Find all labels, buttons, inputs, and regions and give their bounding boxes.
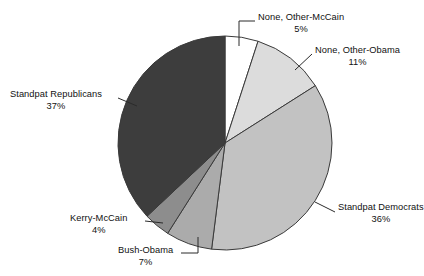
callout-label-bush-obama: Bush-Obama xyxy=(118,245,173,255)
callout-value-kerry-mccain: 4% xyxy=(70,224,127,236)
pie-chart-figure: None, Other-McCain 5% None, Other-Obama … xyxy=(0,0,424,276)
callout-value-standpat-democrats: 36% xyxy=(338,213,424,225)
callout-label-standpat-democrats: Standpat Democrats xyxy=(338,202,424,212)
callout-standpat-republicans: Standpat Republicans 37% xyxy=(10,88,102,112)
callout-label-none-other-mccain: None, Other-McCain xyxy=(258,12,344,22)
callout-value-bush-obama: 7% xyxy=(118,256,173,268)
callout-label-kerry-mccain: Kerry-McCain xyxy=(70,213,127,223)
callout-label-standpat-republicans: Standpat Republicans xyxy=(10,89,102,99)
callout-standpat-democrats: Standpat Democrats 36% xyxy=(338,201,424,225)
callout-label-none-other-obama: None, Other-Obama xyxy=(315,45,400,55)
pie-chart-canvas xyxy=(0,0,424,276)
callout-kerry-mccain: Kerry-McCain 4% xyxy=(70,212,127,236)
callout-none-other-mccain: None, Other-McCain 5% xyxy=(258,11,344,35)
callout-value-none-other-obama: 11% xyxy=(315,56,400,68)
pie-slices xyxy=(118,36,332,250)
leader-line-standpat-democrats xyxy=(315,202,335,212)
callout-value-none-other-mccain: 5% xyxy=(258,23,344,35)
callout-none-other-obama: None, Other-Obama 11% xyxy=(315,44,400,68)
callout-bush-obama: Bush-Obama 7% xyxy=(118,244,173,268)
leader-line-none-other-obama xyxy=(295,54,312,70)
callout-value-standpat-republicans: 37% xyxy=(10,100,102,112)
